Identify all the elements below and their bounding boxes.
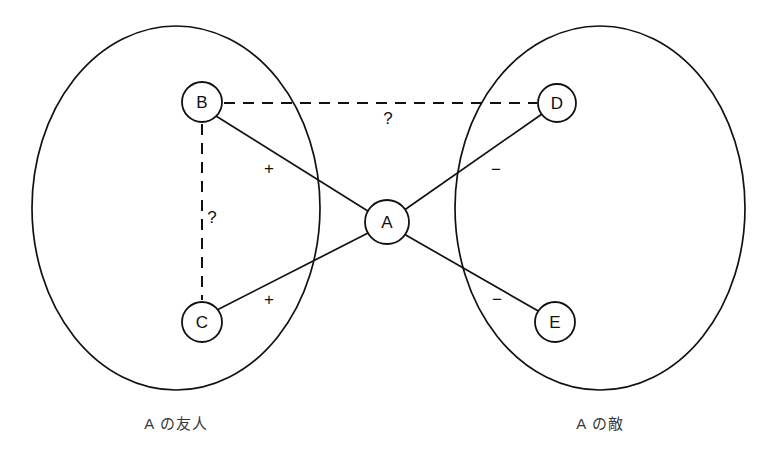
diagram-canvas: + + − − ? ? A B C D E A の友人 A の敵 — [0, 0, 768, 471]
node-a: A — [365, 200, 409, 244]
node-e: E — [535, 302, 575, 342]
edge-sign-b-c: ? — [207, 208, 216, 227]
edge-a-e — [404, 234, 540, 312]
group-caption-enemies: A の敵 — [576, 415, 623, 432]
node-b: B — [182, 82, 222, 122]
edge-a-d — [403, 114, 542, 211]
edge-c-a — [217, 232, 370, 310]
group-outline-enemies — [455, 26, 745, 390]
node-d: D — [538, 84, 576, 122]
group-outline-friends — [32, 26, 320, 390]
node-label-a: A — [381, 213, 393, 232]
node-label-c: C — [196, 313, 208, 332]
edge-sign-b-a: + — [264, 159, 274, 178]
group-caption-friends: A の友人 — [144, 415, 207, 432]
node-label-b: B — [196, 93, 207, 112]
node-c: C — [182, 302, 222, 342]
node-label-d: D — [551, 94, 563, 113]
edge-sign-c-a: + — [264, 290, 274, 309]
node-label-e: E — [549, 313, 560, 332]
edge-sign-a-e: − — [492, 290, 502, 309]
edge-sign-b-d: ? — [383, 109, 392, 128]
edge-b-a — [216, 116, 371, 213]
edge-sign-a-d: − — [491, 160, 501, 179]
figure-root: + + − − ? ? A B C D E A の友人 A の敵 — [0, 0, 768, 471]
